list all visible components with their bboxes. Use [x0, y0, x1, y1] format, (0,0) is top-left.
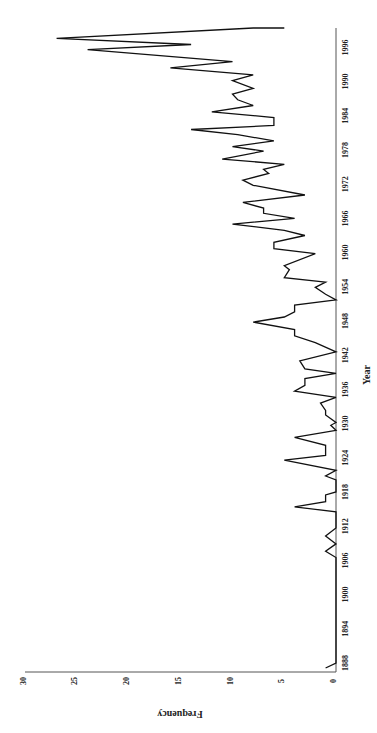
- year-tick-label: 1948: [341, 313, 350, 329]
- year-tick-label: 1912: [341, 518, 350, 534]
- frequency-tick-label: 0: [329, 679, 338, 683]
- frequency-series-line: [57, 28, 336, 668]
- year-tick-label: 1978: [341, 142, 350, 158]
- year-tick-label: 1924: [341, 450, 350, 466]
- year-tick-label: 1942: [341, 347, 350, 363]
- year-tick-label: 1906: [341, 552, 350, 568]
- frequency-tick-labels: 051015202530: [19, 677, 339, 685]
- year-tick-label: 1966: [341, 210, 350, 226]
- year-tick-label: 1984: [341, 108, 350, 124]
- y-axis-title: Frequency: [157, 709, 202, 720]
- frequency-tick-label: 15: [174, 677, 183, 685]
- year-tick-label: 1888: [341, 655, 350, 671]
- year-tick-labels: 1888189419001906191219181924193019361942…: [341, 39, 350, 671]
- frequency-line-chart: 1888189419001906191219181924193019361942…: [0, 0, 377, 733]
- x-axis-title: Year: [361, 364, 372, 385]
- frequency-tick-label: 20: [122, 677, 131, 685]
- year-tick-label: 1930: [341, 416, 350, 432]
- year-tick-label: 1972: [341, 176, 350, 192]
- year-tick-label: 1936: [341, 381, 350, 397]
- year-tick-label: 1900: [341, 587, 350, 603]
- year-tick-label: 1960: [341, 245, 350, 261]
- chart-axes: [25, 28, 336, 672]
- year-tick-label: 1996: [341, 39, 350, 55]
- year-tick-label: 1894: [341, 621, 350, 637]
- year-tick-label: 1990: [341, 74, 350, 90]
- year-tick-label: 1954: [341, 279, 350, 295]
- frequency-tick-label: 5: [277, 679, 286, 683]
- frequency-tick-label: 30: [19, 677, 28, 685]
- frequency-tick-label: 10: [226, 677, 235, 685]
- frequency-tick-label: 25: [70, 677, 79, 685]
- year-tick-label: 1918: [341, 484, 350, 500]
